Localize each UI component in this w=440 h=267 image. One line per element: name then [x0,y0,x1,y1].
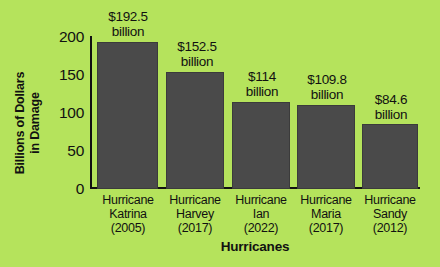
category-label-line-1: Hurricane [344,193,436,207]
bar-hurricane-sandy [362,124,418,189]
category-label-hurricane-sandy: Hurricane Sandy (2012) [344,193,436,236]
value-label-amount: $109.8 [281,73,373,88]
y-axis-tick-labels: 200 150 100 50 0 [40,0,84,267]
value-label-unit: billion [82,25,174,40]
value-label-unit: billion [345,108,437,123]
y-tick-label-100: 100 [40,105,84,120]
value-label-hurricane-harvey: $152.5 billion [151,40,243,69]
bar-hurricane-ian [232,102,290,189]
value-label-amount: $152.5 [151,40,243,55]
value-label-unit: billion [151,55,243,70]
value-label-amount: $84.6 [345,93,437,108]
bar-hurricane-katrina [97,42,158,189]
y-tick-label-200: 200 [40,29,84,44]
value-label-hurricane-sandy: $84.6 billion [345,93,437,122]
category-label-line-3: (2012) [344,221,436,235]
y-tick-label-50: 50 [40,143,84,158]
x-axis-title: Hurricanes [90,239,420,254]
value-label-hurricane-katrina: $192.5 billion [82,10,174,39]
y-tick-label-0: 0 [40,181,84,196]
y-axis-title-line-1: Billions of Dollars [13,43,28,203]
value-label-amount: $192.5 [82,10,174,25]
y-tick-label-150: 150 [40,67,84,82]
bar-chart: Billions of Dollars in Damage 200 150 10… [0,0,440,267]
category-label-line-2: Sandy [344,207,436,221]
